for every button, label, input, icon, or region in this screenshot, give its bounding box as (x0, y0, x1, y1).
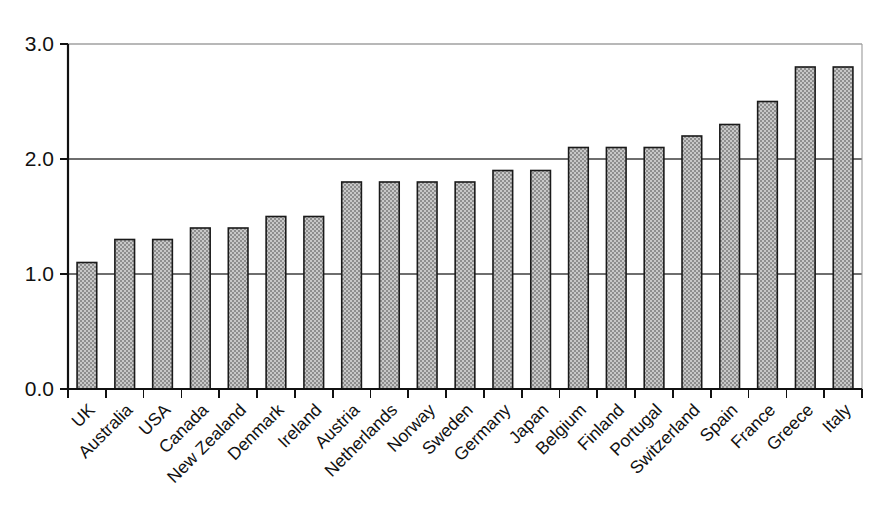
bar-norway (417, 182, 437, 389)
bar-canada (191, 228, 211, 389)
bar-greece (795, 67, 815, 389)
bar-switzerland (682, 136, 702, 389)
bar-italy (833, 67, 853, 389)
bar-portugal (644, 148, 664, 390)
bar-usa (153, 240, 173, 390)
bar-finland (606, 148, 626, 390)
y-tick-label-3.0: 3.0 (25, 32, 54, 55)
bar-chart-figure: 0.01.02.03.0 UKAustraliaUSACanadaNew Zea… (0, 0, 893, 528)
bar-spain (720, 125, 740, 390)
bar-ireland (304, 217, 324, 390)
chart-canvas: 0.01.02.03.0 UKAustraliaUSACanadaNew Zea… (0, 0, 893, 528)
bar-australia (115, 240, 135, 390)
y-tick-label-1.0: 1.0 (25, 262, 54, 285)
bar-uk (77, 263, 97, 390)
bar-belgium (569, 148, 589, 390)
y-tick-label-0.0: 0.0 (25, 377, 54, 400)
bar-japan (531, 171, 551, 390)
bar-germany (493, 171, 513, 390)
bar-austria (342, 182, 362, 389)
y-tick-label-2.0: 2.0 (25, 147, 54, 170)
bar-france (758, 102, 778, 390)
bar-new-zealand (228, 228, 248, 389)
bar-sweden (455, 182, 475, 389)
bar-netherlands (380, 182, 400, 389)
bar-denmark (266, 217, 286, 390)
